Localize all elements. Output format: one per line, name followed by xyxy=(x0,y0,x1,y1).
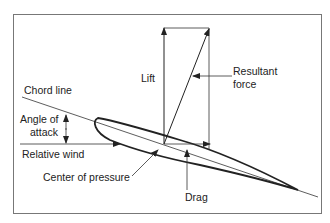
airfoil-force-diagram xyxy=(0,0,330,223)
center-of-pressure-pointer xyxy=(132,150,158,176)
angle-of-attack-label-line1: Angle of xyxy=(20,113,59,125)
relative-wind-label: Relative wind xyxy=(22,148,84,160)
center-of-pressure-label: Center of pressure xyxy=(43,171,130,183)
lift-label: Lift xyxy=(141,72,155,84)
drag-label: Drag xyxy=(185,191,208,203)
resultant-force-arrow xyxy=(164,29,209,144)
chord-line-label: Chord line xyxy=(24,84,72,96)
resultant-force-label-line2: force xyxy=(233,78,256,90)
angle-of-attack-label-line2: attack xyxy=(30,126,58,138)
resultant-force-label-line1: Resultant xyxy=(233,65,277,77)
